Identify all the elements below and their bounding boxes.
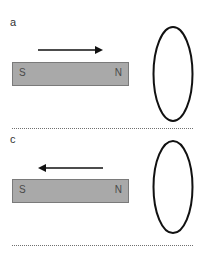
- coil-loop-icon: [154, 27, 193, 121]
- arrow-right-icon: [38, 46, 103, 54]
- diagram-graphics: [0, 0, 207, 254]
- coil-loop-icon: [154, 141, 193, 233]
- arrow-left-icon: [38, 164, 103, 172]
